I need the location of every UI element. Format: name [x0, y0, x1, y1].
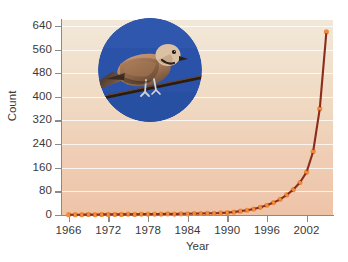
- y-tick-label: 0: [0, 208, 52, 220]
- x-tick-mark: [188, 216, 189, 222]
- y-tick-mark: [55, 144, 61, 145]
- y-tick-mark: [55, 215, 61, 216]
- y-tick-mark: [55, 26, 61, 27]
- y-tick-label: 80: [0, 184, 52, 196]
- data-point: [133, 213, 136, 216]
- data-point: [311, 150, 314, 153]
- x-tick-label: 2002: [285, 224, 329, 236]
- x-tick-mark: [148, 216, 149, 222]
- data-point: [232, 210, 235, 213]
- y-tick-mark: [55, 50, 61, 51]
- eurasian-collared-dove-photo: [98, 18, 202, 122]
- data-point: [285, 193, 288, 196]
- data-point: [325, 30, 328, 33]
- data-point: [67, 213, 70, 216]
- data-point: [278, 198, 281, 201]
- data-point: [272, 201, 275, 204]
- data-point: [318, 107, 321, 110]
- data-point: [80, 213, 83, 216]
- x-tick-label: 1996: [245, 224, 289, 236]
- data-point: [153, 212, 156, 215]
- data-point: [113, 213, 116, 216]
- data-point: [245, 209, 248, 212]
- data-point: [186, 212, 189, 215]
- data-point: [206, 212, 209, 215]
- data-point: [173, 212, 176, 215]
- data-point: [265, 204, 268, 207]
- y-tick-label: 640: [0, 19, 52, 31]
- data-point: [74, 213, 77, 216]
- x-tick-mark: [267, 216, 268, 222]
- data-point: [298, 181, 301, 184]
- x-tick-mark: [227, 216, 228, 222]
- data-point: [219, 211, 222, 214]
- data-point: [305, 170, 308, 173]
- y-tick-label: 560: [0, 43, 52, 55]
- x-tick-label: 1972: [86, 224, 130, 236]
- data-point: [87, 213, 90, 216]
- data-point: [159, 212, 162, 215]
- y-axis-label: Count: [6, 76, 18, 136]
- y-tick-label: 160: [0, 161, 52, 173]
- x-tick-mark: [307, 216, 308, 222]
- data-point: [179, 212, 182, 215]
- y-tick-mark: [55, 191, 61, 192]
- data-point: [292, 188, 295, 191]
- x-axis-label: Year: [62, 240, 333, 252]
- data-point: [259, 206, 262, 209]
- data-point: [252, 207, 255, 210]
- x-tick-label: 1978: [126, 224, 170, 236]
- dove-illustration: [98, 18, 202, 122]
- data-point: [107, 213, 110, 216]
- data-point: [193, 212, 196, 215]
- data-point: [166, 212, 169, 215]
- data-point: [146, 212, 149, 215]
- x-tick-label: 1984: [166, 224, 210, 236]
- data-point: [199, 212, 202, 215]
- y-tick-label: 240: [0, 137, 52, 149]
- y-tick-mark: [55, 120, 61, 121]
- data-point: [226, 211, 229, 214]
- data-point: [100, 213, 103, 216]
- data-point: [120, 213, 123, 216]
- data-point: [126, 212, 129, 215]
- data-point: [239, 209, 242, 212]
- data-point: [93, 213, 96, 216]
- chart-figure: 080160240320400480560640 196619721978198…: [0, 0, 348, 262]
- x-tick-label: 1990: [205, 224, 249, 236]
- y-tick-mark: [55, 73, 61, 74]
- data-point: [140, 212, 143, 215]
- data-point: [212, 212, 215, 215]
- x-tick-label: 1966: [47, 224, 91, 236]
- y-tick-mark: [55, 168, 61, 169]
- y-tick-mark: [55, 97, 61, 98]
